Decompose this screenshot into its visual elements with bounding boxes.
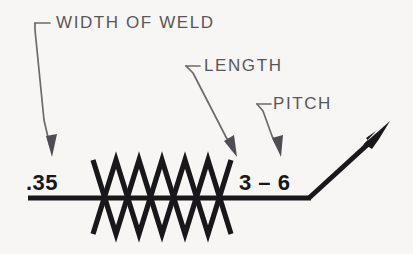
- arrow-leader: [309, 121, 390, 198]
- welding-symbol-drawing: [0, 0, 413, 254]
- width-of-weld-leader-line: [35, 23, 50, 146]
- arrow-leader-arrowhead-barb: [364, 121, 390, 149]
- welding-symbol-figure: WIDTH OF WELD LENGTH PITCH .35 3 – 6: [0, 0, 413, 254]
- label-length: LENGTH: [204, 57, 283, 74]
- dimension-length-pitch-value: 3 – 6: [239, 172, 290, 194]
- width-of-weld-arrowhead: [46, 134, 57, 157]
- pitch-arrowhead: [272, 135, 283, 157]
- width-of-weld-leader: [35, 23, 57, 157]
- dimension-width-of-weld-value: .35: [26, 172, 58, 194]
- length-leader-line: [186, 66, 232, 147]
- label-width-of-weld: WIDTH OF WELD: [56, 14, 215, 31]
- label-pitch: PITCH: [273, 95, 332, 112]
- length-leader: [186, 66, 237, 157]
